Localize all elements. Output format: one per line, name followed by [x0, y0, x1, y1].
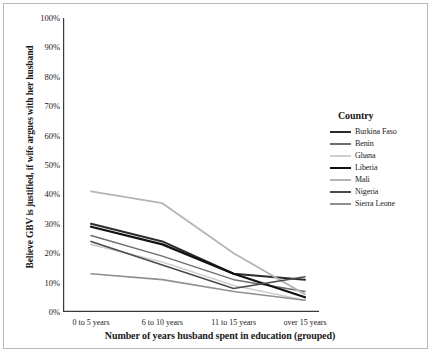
legend-item[interactable]: Benin [330, 138, 428, 150]
legend-title: Country [338, 110, 428, 121]
series-line [91, 191, 305, 294]
legend-item[interactable]: Liberia [330, 162, 428, 174]
legend-item[interactable]: Sierra Leone [330, 198, 428, 210]
legend-item-label: Burkina Faso [355, 127, 397, 136]
chart-figure: Believe GBV is justified, if wife argues… [0, 0, 431, 352]
legend-color-swatch [330, 167, 351, 169]
chart-legend: Country Burkina FasoBeninGhanaLiberiaMal… [330, 110, 428, 210]
legend-color-swatch [330, 131, 351, 133]
x-tick-label: 11 to 15 years [211, 318, 256, 327]
legend-item-label: Liberia [355, 163, 377, 172]
y-tick-label: 90% [44, 42, 60, 52]
x-tick-label: over 15 years [283, 318, 326, 327]
series-line [91, 241, 305, 288]
x-axis-tick-labels: 0 to 5 years6 to 10 years11 to 15 yearso… [63, 316, 319, 330]
legend-color-swatch [330, 191, 351, 193]
x-axis-title: Number of years husband spent in educati… [40, 330, 400, 341]
y-tick-label: 100% [40, 13, 60, 23]
y-tick-label: 50% [44, 160, 60, 170]
series-line [91, 227, 305, 298]
legend-item-label: Mali [355, 175, 370, 184]
legend-item-label: Benin [355, 139, 374, 148]
y-axis-tick-labels: 0%10%20%30%40%50%60%70%80%90%100% [18, 18, 60, 312]
legend-color-swatch [330, 203, 351, 205]
legend-item-label: Ghana [355, 151, 375, 160]
legend-items: Burkina FasoBeninGhanaLiberiaMaliNigeria… [330, 126, 428, 210]
legend-item[interactable]: Ghana [330, 150, 428, 162]
legend-item[interactable]: Nigeria [330, 186, 428, 198]
legend-color-swatch [330, 179, 351, 181]
series-lines [91, 191, 305, 300]
y-tick-label: 80% [44, 72, 60, 82]
axis-lines [63, 18, 319, 312]
plot-area [63, 18, 319, 312]
legend-color-swatch [330, 143, 351, 145]
y-tick-label: 0% [49, 307, 60, 317]
series-line [91, 236, 305, 292]
x-tick-label: 0 to 5 years [72, 318, 109, 327]
y-tick-label: 10% [44, 278, 60, 288]
y-tick-label: 30% [44, 219, 60, 229]
legend-item[interactable]: Burkina Faso [330, 126, 428, 138]
y-tick-label: 40% [44, 189, 60, 199]
legend-color-swatch [330, 155, 351, 157]
legend-item-label: Sierra Leone [355, 199, 395, 208]
y-tick-label: 60% [44, 131, 60, 141]
x-tick-label: 6 to 10 years [142, 318, 183, 327]
y-tick-label: 20% [44, 248, 60, 258]
y-tick-label: 70% [44, 101, 60, 111]
legend-item[interactable]: Mali [330, 174, 428, 186]
legend-item-label: Nigeria [355, 187, 378, 196]
plot-svg [63, 18, 319, 312]
